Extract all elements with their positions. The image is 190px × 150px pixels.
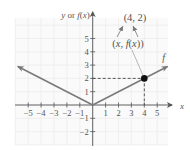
function-graph: xy or f(x) −5−4−3−2−112345−2−112345 f (4… [0,0,190,150]
x-tick-label: −3 [49,108,58,118]
y-tick-label: 2 [84,73,88,83]
x-tick-label: 2 [116,108,120,118]
y-tick-label: −2 [80,127,89,137]
x-tick-label: −5 [24,108,33,118]
x-tick-label: −2 [62,108,71,118]
y-tick-label: 4 [84,47,89,57]
y-tick-label: 5 [84,34,88,44]
generic-point-label: (x, f(x)) [112,38,144,50]
y-tick-label: 3 [84,60,88,70]
x-tick-label: 3 [129,108,133,118]
y-axis-label: y or f(x) [60,10,90,20]
x-axis-label: x [179,101,184,111]
x-tick-label: 1 [103,108,107,118]
x-tick-label: 4 [142,108,147,118]
x-tick-label: −4 [37,108,47,118]
y-tick-label: 1 [84,87,88,97]
point-label: (4, 2) [124,12,147,24]
y-tick-label: −1 [80,113,89,123]
highlight-point [141,75,148,82]
x-tick-label: 5 [155,108,159,118]
